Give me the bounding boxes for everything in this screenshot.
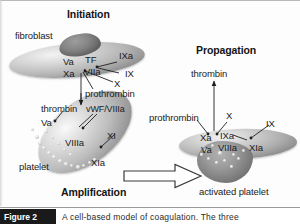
factor-label-initiation-ix: IX [125,69,134,79]
section-title-amplification: Amplification [61,187,126,198]
label-activated-platelet: activated platelet [199,187,269,197]
factor-label-propagation-xia: XIa [249,143,263,153]
factor-label-propagation-viiia: VIIIa [218,143,237,153]
factor-label-amplification-xia: XIa [91,158,105,168]
factor-label-amplification-xi: XI [107,131,116,141]
section-title-propagation: Propagation [196,45,256,56]
block-arrow-right-icon [123,163,203,189]
factor-label-propagation-ixa: IXa [220,131,234,141]
factor-label-propagation-ix: IX [266,119,275,129]
figure-caption-text: A cell-based model of coagulation. The t… [62,209,300,224]
activated-platelet-cell-shape [179,127,298,161]
granule-dot [215,161,218,164]
label-fibroblast: fibroblast [15,31,53,41]
granule-dot [223,159,226,162]
figure-panel: Initiation Amplification Propagation fib… [0,0,300,206]
factor-label-amplification-va: Va [41,118,52,128]
factor-label-propagation-prothrombin: prothrombin [149,113,199,123]
factor-label-amplification-viiia: VIIIa [65,138,84,148]
factor-label-initiation-prothrombin: prothrombin [85,89,135,99]
granule-dot [35,135,39,139]
factor-label-initiation-tf: TF [85,55,96,65]
factor-label-propagation-x: X [226,111,232,121]
factor-label-initiation-va: Va [63,57,74,67]
factor-label-initiation-xa: Xa [63,69,74,79]
granule-dot [230,165,233,168]
figure-caption-strip: Figure 2 A cell-based model of coagulati… [0,207,300,224]
label-platelet: platelet [19,162,49,172]
figure-number-tag: Figure 2 [0,209,56,224]
factor-label-amplification-thrombin: thrombin [41,104,77,114]
factor-label-initiation-ixa: IXa [119,51,133,61]
factor-label-propagation-thrombin: thrombin [191,69,227,79]
granule-dot [31,128,34,131]
section-title-initiation: Initiation [67,9,110,20]
figure-screenshot: Initiation Amplification Propagation fib… [0,0,300,224]
factor-label-initiation-viia: VIIa [84,67,101,77]
factor-label-amplification-vwf-viiia: vWF/VIIIa [86,105,125,114]
factor-label-propagation-xa: Xa [200,133,211,143]
factor-label-propagation-va: Va [201,145,212,155]
